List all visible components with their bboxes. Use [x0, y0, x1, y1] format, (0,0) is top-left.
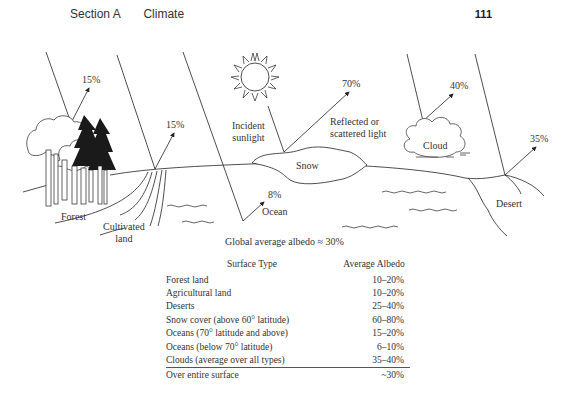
column-header-surface: Surface Type [166, 258, 338, 273]
incident-ray-forest [46, 52, 71, 123]
water-ripple [382, 191, 446, 193]
surface-cell: Oceans (below 70° latitude) [166, 340, 338, 353]
sun-icon [231, 53, 279, 101]
table-total-row: Over entire surface ~30% [166, 367, 410, 382]
water-ripple [182, 221, 214, 223]
albedo-cell: 60–80% [338, 313, 410, 326]
incident-label-line1: Incident [232, 120, 265, 132]
albedo-cell: 25–40% [338, 300, 410, 313]
reflected-label-line1: Reflected or [330, 116, 386, 128]
surface-cell: Deserts [166, 300, 338, 313]
surface-cell: Forest land [166, 273, 338, 286]
incident-sunlight-label: Incident sunlight [232, 120, 265, 144]
surface-cell: Clouds (average over all types) [166, 353, 338, 367]
incident-ray-cloud [407, 54, 423, 121]
surface-cell: Oceans (70° latitude and above) [166, 327, 338, 340]
furrow-5 [158, 170, 166, 226]
cultivated-land-label: Cultivated land [103, 221, 145, 245]
column-header-albedo: Average Albedo [338, 258, 410, 273]
forest-label: Forest [61, 211, 86, 223]
furrow-2 [120, 172, 152, 215]
table-row: Oceans (below 70° latitude) 6–10% [166, 340, 410, 353]
forest-icon [27, 115, 116, 206]
horizon-line-right [366, 166, 505, 179]
snow-albedo-label: 70% [342, 78, 360, 90]
surface-cell: Snow cover (above 60° latitude) [166, 313, 338, 326]
forest-albedo-label: 15% [82, 74, 100, 86]
water-ripple [167, 205, 207, 207]
cloud-label: Cloud [423, 140, 447, 152]
albedo-cell: ~30% [338, 367, 410, 382]
ocean-albedo-label: 8% [268, 189, 281, 201]
incident-label-line2: sunlight [232, 132, 265, 144]
albedo-cell: 15–20% [338, 327, 410, 340]
reflected-label-line2: scattered light [330, 128, 386, 140]
albedo-cell: 35–40% [338, 353, 410, 367]
ground-left-line [23, 185, 48, 192]
surface-cell: Agricultural land [166, 286, 338, 299]
snow-label: Snow [296, 160, 319, 172]
reflected-arrow-forest [71, 88, 89, 123]
surface-cell: Over entire surface [166, 367, 338, 382]
table-row: Oceans (70° latitude and above) 15–20% [166, 327, 410, 340]
reflected-arrow-cultivated [155, 133, 174, 169]
water-ripple [409, 209, 457, 211]
horizon-line [110, 163, 285, 175]
table-row: Snow cover (above 60° latitude) 60–80% [166, 313, 410, 326]
desert-albedo-label: 35% [530, 133, 548, 145]
cultivated-albedo-label: 15% [166, 119, 184, 131]
desert-label: Desert [496, 198, 522, 210]
incident-ray-snow [268, 106, 284, 152]
table-row: Agricultural land 10–20% [166, 286, 410, 299]
global-albedo-caption: Global average albedo ≈ 30% [225, 236, 344, 247]
desert-line-1 [505, 175, 521, 194]
table-row: Clouds (average over all types) 35–40% [166, 353, 410, 367]
reflected-arrow-desert [505, 147, 536, 175]
cloud-albedo-label: 40% [450, 80, 468, 92]
desert-line-2 [505, 175, 544, 196]
table-row: Forest land 10–20% [166, 273, 410, 286]
table-header-row: Surface Type Average Albedo [166, 258, 410, 273]
reflected-light-label: Reflected or scattered light [330, 116, 386, 140]
incident-ray-desert [475, 54, 505, 175]
ocean-label: Ocean [262, 206, 288, 218]
reflected-arrow-cloud [423, 94, 453, 121]
albedo-cell: 10–20% [338, 273, 410, 286]
table-row: Deserts 25–40% [166, 300, 410, 313]
water-ripple [342, 226, 398, 228]
cultivated-label-line1: Cultivated [103, 221, 145, 233]
albedo-cell: 10–20% [338, 286, 410, 299]
reflected-arrow-ocean [243, 202, 264, 221]
albedo-table: Surface Type Average Albedo Forest land … [166, 258, 410, 382]
cultivated-label-line2: land [103, 233, 145, 245]
albedo-cell: 6–10% [338, 340, 410, 353]
albedo-diagram [0, 0, 575, 240]
incident-ray-cultivated [117, 55, 155, 169]
